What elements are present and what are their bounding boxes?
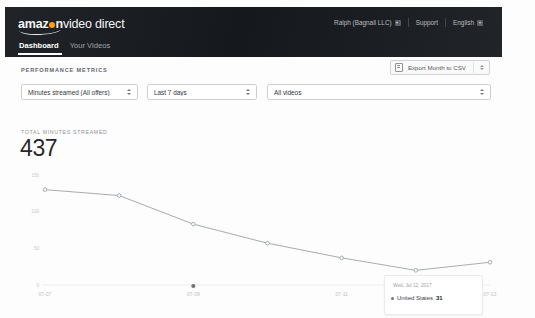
chevron-down-icon (477, 20, 483, 26)
date-range-select[interactable]: Last 7 days (147, 84, 257, 100)
svg-text:07-11: 07-11 (335, 291, 348, 297)
svg-text:07-13: 07-13 (484, 291, 497, 297)
main-content: PERFORMANCE METRICS Export Month to CSV … (5, 57, 502, 106)
support-label: Support (416, 19, 438, 26)
account-menu-label: Ralph (Bagnall LLC) (334, 19, 392, 26)
date-range-select-value: Last 7 days (154, 89, 245, 96)
metric-select-value: Minutes streamed (All offers) (28, 89, 126, 96)
series-color-dot (391, 297, 394, 300)
chevron-down-icon (395, 20, 401, 26)
video-select-value: All videos (274, 89, 479, 96)
minutes-streamed-chart[interactable]: 05010015007-0707-0907-1107-13 Wed, Jul 1… (15, 167, 502, 307)
language-menu[interactable]: English (446, 19, 490, 26)
button-divider (473, 62, 474, 73)
filter-row: Minutes streamed (All offers) Last 7 day… (5, 84, 502, 106)
tab-your-videos-label: Your Videos (70, 41, 111, 50)
svg-text:0: 0 (36, 283, 39, 288)
language-label: English (453, 19, 474, 26)
amazon-video-direct-logo[interactable]: amaznvideo direct (18, 17, 124, 31)
logo-video-direct-text: video direct (63, 17, 125, 31)
header-utility-nav: Ralph (Bagnall LLC) Support English (327, 18, 490, 27)
video-select[interactable]: All videos (267, 84, 491, 100)
tooltip-series-value: 31 (436, 295, 443, 301)
account-menu[interactable]: Ralph (Bagnall LLC) (327, 19, 408, 26)
svg-text:150: 150 (31, 173, 39, 178)
amazon-wordmark: amazn (18, 17, 63, 31)
tooltip-series-row: United States 31 (391, 295, 443, 301)
svg-text:100: 100 (31, 209, 39, 214)
chevron-updown-icon (479, 64, 484, 72)
app-root: amaznvideo direct Ralph (Bagnall LLC) Su… (0, 0, 535, 318)
tab-dashboard[interactable]: Dashboard (18, 41, 69, 57)
tooltip-date: Wed, Jul 12, 2017 (393, 283, 432, 288)
amazon-smile-icon (19, 30, 63, 35)
chevron-updown-icon (245, 88, 250, 96)
tab-dashboard-label: Dashboard (19, 41, 59, 50)
tooltip-series-name: United States (397, 295, 433, 301)
svg-text:50: 50 (34, 246, 40, 251)
primary-nav-tabs: Dashboard Your Videos (18, 41, 119, 57)
total-minutes-value: 437 (20, 135, 57, 162)
chevron-updown-icon (479, 88, 484, 96)
site-header: amaznvideo direct Ralph (Bagnall LLC) Su… (5, 7, 502, 57)
svg-text:07-09: 07-09 (187, 291, 200, 297)
chart-tooltip: Wed, Jul 12, 2017 United States 31 (384, 275, 483, 315)
performance-metrics-header: PERFORMANCE METRICS Export Month to CSV (5, 57, 502, 83)
metric-select[interactable]: Minutes streamed (All offers) (21, 84, 138, 100)
support-link[interactable]: Support (409, 19, 445, 26)
chevron-updown-icon (126, 88, 131, 96)
page-title: PERFORMANCE METRICS (21, 67, 108, 73)
export-csv-button[interactable]: Export Month to CSV (390, 60, 490, 75)
svg-text:07-07: 07-07 (39, 291, 52, 297)
document-icon (395, 63, 403, 72)
tab-your-videos[interactable]: Your Videos (69, 41, 120, 57)
export-csv-label: Export Month to CSV (408, 64, 466, 71)
